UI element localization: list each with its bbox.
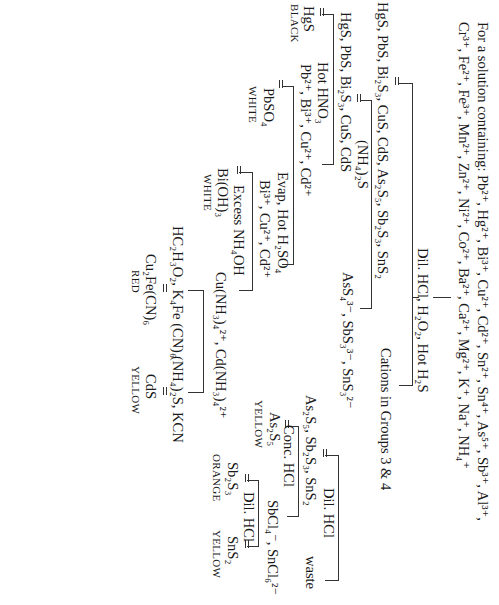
precipitate-marker	[163, 284, 167, 292]
precipitate-marker	[245, 540, 249, 548]
connector-line	[433, 297, 451, 298]
step9-reagent: Dil. HCl	[241, 492, 257, 542]
step3-precipitate: HgS	[301, 6, 317, 32]
step7-precipitate: As₂S₅, Sb₂S₃, SnS₂	[303, 395, 319, 506]
bracket-line	[188, 290, 204, 291]
bracket-line	[325, 580, 339, 581]
bracket-line	[333, 14, 334, 164]
bracket-line	[360, 308, 372, 309]
bracket-line	[322, 164, 334, 165]
step4-reagent: Evap, Hot H₂SO₄	[275, 172, 291, 274]
step2-reagent: (NH₄)₂S	[355, 140, 371, 189]
step2-precipitate: HgS, PbS, Bi₂S₃, CuS, CdS	[338, 12, 354, 172]
precipitate-marker	[320, 8, 324, 16]
precipitate-marker	[357, 94, 361, 102]
step3-reagent: Hot HNO₃	[315, 62, 331, 124]
step4-solution: Bi³⁺, Cu²⁺, Cd²⁺	[257, 180, 273, 278]
step8-reagent: Conc. HCl	[281, 425, 297, 487]
step5-solution: Cu(NH₃)₄²⁺, Cd(NH₃)₄²⁺	[213, 272, 229, 419]
step8-precipitate-color: YELLOW	[253, 400, 265, 448]
bracket-line	[325, 455, 339, 456]
bracket-line	[399, 385, 413, 386]
step6-reagent-left: HC₂H₃O₂, K₄Fe (CN)₆	[170, 226, 186, 358]
bracket-line	[188, 392, 204, 393]
step9-left-color: ORANGE	[211, 454, 223, 502]
step4-precipitate-color: WHITE	[247, 86, 259, 123]
bracket-line	[298, 426, 299, 516]
step3-solution: Pb²⁺, Bi³⁺, Cu²⁺, Cd²⁺	[298, 64, 314, 197]
step6-reagent-right: (NH₄)₂S, KCN	[170, 356, 186, 443]
step6-right-product: CdS	[143, 374, 159, 399]
step2-solution: AsS₄³⁻, SbS₃³⁻, SnS₃²⁻	[340, 272, 356, 409]
step6-right-color: YELLOW	[130, 366, 142, 414]
step1-precipitate: HgS, PbS, Bi₂S₃, CuS, CdS, As₂S₅, Sb₂S₃,…	[375, 2, 391, 279]
bracket-line	[203, 290, 204, 392]
precipitate-marker	[237, 166, 241, 174]
bracket-line	[371, 100, 372, 308]
step5-precipitate: Bi(OH)₃	[215, 168, 231, 217]
step6-left-color: RED	[130, 270, 142, 293]
bracket-line	[239, 172, 253, 173]
bracket-line	[287, 516, 299, 517]
step5-reagent: Excess NH₄OH	[231, 185, 247, 276]
bracket-line	[360, 100, 372, 101]
precipitate-marker	[279, 80, 283, 88]
step7-solution: waste	[303, 556, 319, 589]
step1-solution: Cations in Groups 3 & 4	[378, 348, 394, 490]
step9-right-color: YELLOW	[211, 530, 223, 578]
bracket-line	[252, 172, 253, 290]
header-line-2: Cr³⁺, Fe²⁺, Fe³⁺, Mn²⁺, Zn²⁺, Ni²⁺, Co²⁺…	[456, 22, 472, 469]
bracket-line	[258, 480, 259, 546]
precipitate-marker	[323, 449, 327, 457]
step9-left-product: Sb₂S₃	[225, 462, 241, 496]
precipitate-marker	[163, 387, 167, 395]
bracket-line	[282, 86, 294, 87]
bracket-line	[338, 455, 339, 580]
bracket-line	[293, 86, 294, 264]
step8-solution: SbCl₄⁻, SnCl₆²⁻	[265, 500, 281, 595]
flowchart-diagram: For a solution containing: Pb²⁺, Hg²⁺, B…	[0, 0, 499, 605]
precipitate-marker	[395, 77, 399, 85]
step6-left-product: Cu₂Fe(CN)₆	[143, 254, 159, 325]
step4-precipitate: PbSO₄	[261, 88, 277, 127]
step1-reagent: Dil. HCl, H₂O₂, Hot H₂S	[415, 248, 431, 392]
step5-precipitate-color: WHITE	[202, 174, 214, 211]
bracket-line	[399, 83, 413, 84]
step9-right-product: SnS₂	[225, 536, 241, 564]
step7-reagent: Dil. HCl	[321, 488, 337, 538]
precipitate-marker	[245, 474, 249, 482]
bracket-tick	[412, 297, 419, 298]
step3-precipitate-color: BLACK	[289, 4, 301, 43]
step8-precipitate: As₂S₅	[267, 412, 283, 446]
bracket-line	[239, 290, 253, 291]
header-line-1: For a solution containing: Pb²⁺, Hg²⁺, B…	[475, 22, 491, 521]
bracket-line	[412, 83, 413, 385]
